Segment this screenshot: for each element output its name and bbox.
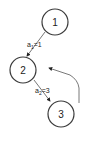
node-3-label: 3	[58, 109, 64, 120]
edge-label-2-to-3: a2=3	[35, 87, 50, 96]
edge-curved-return	[49, 68, 79, 103]
node-3: 3	[48, 101, 74, 127]
edge-label-1-to-2: a1=1	[27, 41, 42, 50]
node-2: 2	[10, 57, 36, 83]
node-2-label: 2	[20, 65, 26, 76]
state-diagram: 1 2 3 a1=1 a2=3	[0, 0, 87, 150]
edge-label-value: =1	[34, 41, 42, 48]
node-1: 1	[42, 9, 68, 35]
edge-label-value: =3	[42, 87, 50, 94]
node-1-label: 1	[52, 17, 58, 28]
